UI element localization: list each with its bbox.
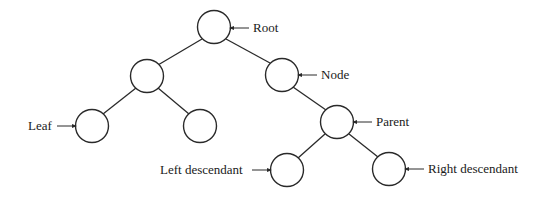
left-descendant-node [271, 154, 304, 187]
right-descendant-node [373, 153, 406, 186]
edge-root-left [158, 39, 202, 65]
leaf-node [76, 110, 109, 143]
tree-edges [103, 39, 378, 158]
root-label: Root [253, 20, 279, 35]
parent-node [321, 106, 354, 139]
edge-node-parent [293, 87, 326, 110]
right-descendant-label: Right descendant [428, 161, 518, 176]
tree-labels: Root Node Leaf Parent Left descendant Ri… [28, 20, 518, 177]
edge-root-node [226, 39, 270, 63]
leaf-label: Leaf [28, 118, 52, 133]
edge-left-rightleaf [158, 88, 189, 114]
edge-parent-rightdesc [349, 134, 378, 157]
edge-parent-leftdesc [298, 134, 325, 158]
tree-nodes [76, 11, 406, 187]
parent-label: Parent [376, 114, 410, 129]
binary-tree-diagram: Root Node Leaf Parent Left descendant Ri… [0, 0, 546, 206]
root-node [198, 11, 231, 44]
edge-left-leaf [103, 88, 136, 114]
left-descendant-label: Left descendant [160, 162, 243, 177]
left-child-node [131, 60, 164, 93]
left-right-leaf-node [184, 110, 217, 143]
node-label: Node [321, 67, 349, 82]
node-node [266, 59, 299, 92]
